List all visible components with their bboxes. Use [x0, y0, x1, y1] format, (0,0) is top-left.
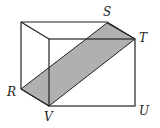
prism-diagram: S T R V U [0, 0, 160, 128]
shaded-plane-RSTV [21, 23, 135, 106]
label-V: V [44, 110, 54, 124]
label-S: S [103, 5, 111, 19]
label-R: R [6, 85, 16, 99]
label-U: U [139, 104, 150, 118]
edge-top-left-depth [21, 22, 49, 39]
label-T: T [139, 31, 148, 45]
